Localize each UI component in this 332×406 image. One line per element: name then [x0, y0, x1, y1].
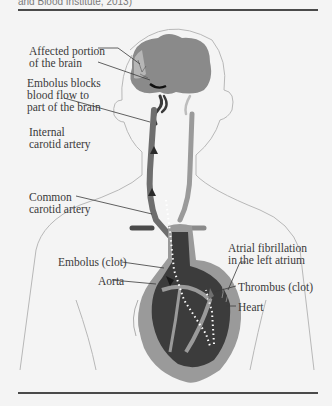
label-thrombus: Thrombus (clot) — [238, 281, 313, 293]
label-internal-carotid: Internal carotid artery — [29, 126, 91, 150]
label-atrial-fibrillation: Atrial fibrillation in the left atrium — [228, 242, 307, 266]
bottom-rule — [18, 392, 318, 394]
brain-shape — [130, 34, 211, 94]
heart-shape — [138, 224, 241, 383]
label-common-carotid: Common carotid artery — [29, 191, 91, 215]
label-embolus-clot: Embolus (clot) — [58, 256, 127, 268]
label-heart: Heart — [238, 301, 264, 313]
label-embolus-blocks: Embolus blocks blood flow to part of the… — [27, 77, 101, 113]
label-affected-portion: Affected portion of the brain — [29, 45, 105, 69]
label-aorta: Aorta — [98, 275, 124, 287]
